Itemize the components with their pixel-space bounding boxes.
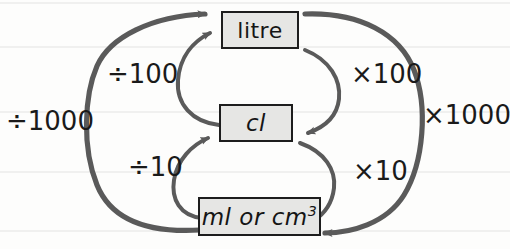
diagram-canvas: litre cl ml or cm3 ÷1000 ÷100 ÷10 ×100 ×… [0, 0, 510, 249]
operation-label-multiply-1000: ×1000 [423, 100, 510, 130]
unit-box-ml-cm3-exponent: 3 [308, 203, 318, 219]
arrow-div100 [178, 33, 219, 125]
operation-label-multiply-100: ×100 [351, 59, 422, 89]
operation-label-divide-10: ÷10 [128, 152, 183, 182]
operation-label-multiply-10: ×10 [353, 156, 408, 186]
unit-box-litre[interactable]: litre [221, 11, 299, 49]
arrow-mul100 [305, 50, 339, 133]
arrow-div1000 [86, 14, 205, 230]
unit-box-cl-label: cl [246, 110, 266, 136]
unit-box-ml-cm3-label: ml or cm3 [202, 203, 318, 230]
unit-box-ml-cm3-base: ml or cm [202, 204, 308, 230]
unit-box-cl[interactable]: cl [219, 104, 293, 142]
operation-label-divide-1000: ÷1000 [6, 106, 94, 136]
unit-box-litre-label: litre [237, 18, 282, 43]
operation-label-divide-100: ÷100 [107, 59, 178, 89]
unit-box-ml-cm3[interactable]: ml or cm3 [198, 197, 321, 236]
